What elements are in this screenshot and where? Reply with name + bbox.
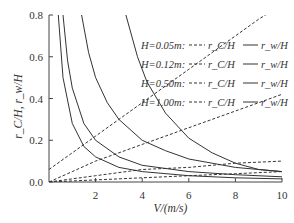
legend-label: H=0.12m: xyxy=(140,59,185,70)
dashed-series-line xyxy=(49,161,282,182)
legend-solid-label: r_w/H xyxy=(261,40,289,51)
legend-label: H=1.00m: xyxy=(140,97,185,108)
x-tick-label: 4 xyxy=(139,189,145,201)
solid-series-line xyxy=(82,15,282,172)
y-tick-label: 0.0 xyxy=(29,176,43,188)
y-tick-label: 0.2 xyxy=(29,134,43,146)
legend-dashed-label: r_C/H xyxy=(208,59,236,70)
y-tick-label: 0.8 xyxy=(29,9,43,21)
y-axis-title: r_C/H, r_w/H xyxy=(12,74,25,139)
x-axis-title: V/(m/s) xyxy=(154,202,188,215)
x-tick-label: 2 xyxy=(93,189,99,201)
legend-solid-label: r_w/H xyxy=(261,97,289,108)
legend-label: H=0.05m: xyxy=(140,40,185,51)
legend: H=0.05m:r_C/Hr_w/HH=0.12m:r_C/Hr_w/HH=0.… xyxy=(140,40,289,108)
legend-label: H=0.50m: xyxy=(140,78,185,89)
x-tick-label: 8 xyxy=(233,189,239,201)
y-tick-label: 0.6 xyxy=(29,51,43,63)
legend-dashed-label: r_C/H xyxy=(208,78,236,89)
x-tick-label: 6 xyxy=(186,189,192,201)
legend-solid-label: r_w/H xyxy=(261,78,289,89)
x-tick-label: 10 xyxy=(277,189,289,201)
legend-dashed-label: r_C/H xyxy=(208,40,236,51)
line-chart: 0.00.20.40.60.8246810V/(m/s)r_C/H, r_w/H… xyxy=(0,0,294,223)
legend-dashed-label: r_C/H xyxy=(208,97,236,108)
solid-series-line xyxy=(126,15,282,172)
series-lines xyxy=(49,5,282,182)
legend-solid-label: r_w/H xyxy=(261,59,289,70)
y-tick-label: 0.4 xyxy=(29,93,43,105)
